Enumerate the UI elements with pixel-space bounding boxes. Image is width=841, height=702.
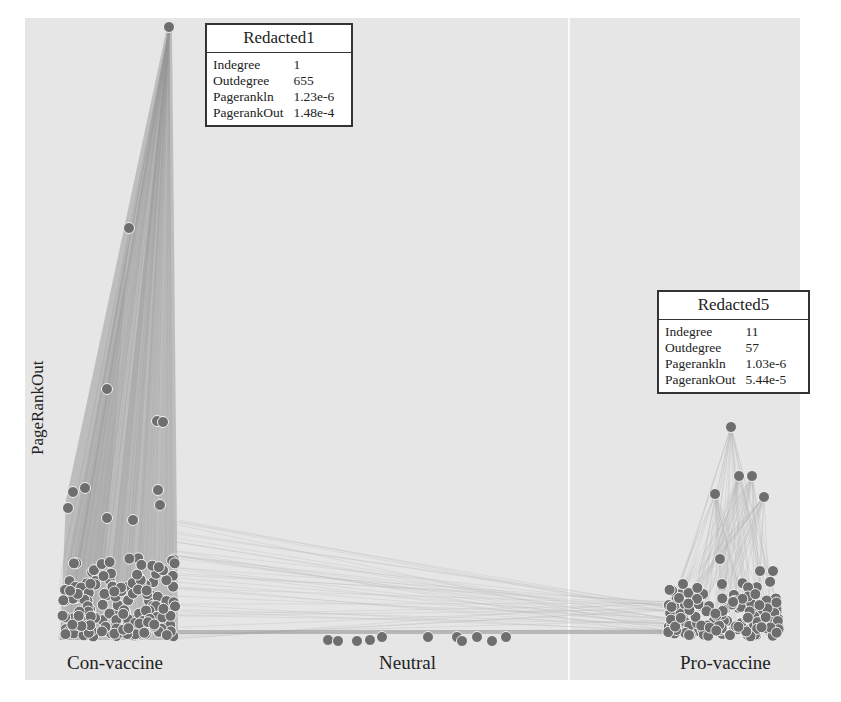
node: [136, 559, 147, 570]
tooltip-title: Redacted5: [659, 292, 808, 320]
tooltip-row: Outdegree655: [213, 73, 334, 89]
node: [153, 485, 164, 496]
node: [102, 513, 113, 524]
node: [754, 600, 765, 611]
node: [674, 593, 685, 604]
node: [457, 636, 468, 647]
node: [73, 610, 84, 621]
tooltip-row: PagerankOut1.48e-4: [213, 105, 334, 121]
node: [771, 627, 782, 638]
tooltip-key: Outdegree: [665, 340, 745, 356]
tooltip-redacted5: Redacted5 Indegree11 Outdegree57 Pageran…: [657, 290, 810, 394]
tooltip-value: 1.48e-4: [293, 105, 334, 121]
node: [104, 557, 115, 568]
node: [710, 489, 721, 500]
node: [664, 584, 675, 595]
tooltip-redacted1: Redacted1 Indegree1 Outdegree655 Pageran…: [205, 23, 353, 127]
node: [63, 503, 74, 514]
node: [666, 601, 677, 612]
node: [164, 22, 175, 33]
node: [710, 608, 721, 619]
node: [768, 566, 779, 577]
node: [678, 579, 689, 590]
tooltip-key: PagerankOut: [665, 372, 745, 388]
node: [755, 566, 766, 577]
node: [742, 612, 753, 623]
tooltip-row: Pagerankln1.23e-6: [213, 89, 334, 105]
category-label-con-vaccine: Con-vaccine: [67, 652, 163, 674]
node: [717, 579, 728, 590]
node: [715, 554, 726, 565]
tooltip-title: Redacted1: [207, 25, 351, 53]
node: [733, 621, 744, 632]
tooltip-table: Indegree11 Outdegree57 Pagerankln1.03e-6…: [665, 324, 786, 388]
node: [141, 585, 152, 596]
tooltip-key: Outdegree: [213, 73, 293, 89]
node: [124, 553, 135, 564]
node: [760, 612, 771, 623]
node: [158, 417, 169, 428]
node: [109, 586, 120, 597]
node: [65, 585, 76, 596]
node: [365, 635, 376, 646]
node: [57, 610, 68, 621]
node: [85, 578, 96, 589]
tooltip-value: 1: [293, 57, 334, 73]
node: [692, 582, 703, 593]
node: [80, 483, 91, 494]
tooltip-key: Pagerankln: [213, 89, 293, 105]
node: [756, 622, 767, 633]
tooltip-key: Indegree: [213, 57, 293, 73]
node: [747, 471, 758, 482]
node: [149, 619, 160, 630]
node: [58, 595, 69, 606]
node: [102, 384, 113, 395]
tooltip-row: Pagerankln1.03e-6: [665, 356, 786, 372]
node: [161, 575, 172, 586]
node: [501, 632, 512, 643]
node: [139, 627, 150, 638]
node: [153, 562, 164, 573]
node: [155, 500, 166, 511]
node: [352, 636, 363, 647]
node: [734, 471, 745, 482]
node: [118, 608, 129, 619]
category-label-pro-vaccine: Pro-vaccine: [680, 652, 771, 674]
node: [161, 630, 172, 641]
node: [123, 623, 134, 634]
tooltip-row: Indegree11: [665, 324, 786, 340]
tooltip-value: 655: [293, 73, 334, 89]
node: [323, 635, 334, 646]
tooltip-row: Outdegree57: [665, 340, 786, 356]
node: [711, 625, 722, 636]
tooltip-value: 11: [745, 324, 786, 340]
node: [60, 629, 71, 640]
tooltip-key: Indegree: [665, 324, 745, 340]
node: [728, 596, 739, 607]
tooltip-row: PagerankOut5.44e-5: [665, 372, 786, 388]
node: [169, 558, 180, 569]
node: [472, 632, 483, 643]
node: [765, 576, 776, 587]
node: [750, 589, 761, 600]
node: [158, 603, 169, 614]
node: [759, 492, 770, 503]
tooltip-value: 5.44e-5: [745, 372, 786, 388]
tooltip-key: PagerankOut: [213, 105, 293, 121]
node: [487, 636, 498, 647]
node: [68, 558, 79, 569]
node: [675, 612, 686, 623]
tooltip-value: 1.23e-6: [293, 89, 334, 105]
node: [377, 632, 388, 643]
node: [423, 632, 434, 643]
tooltip-table: Indegree1 Outdegree655 Pagerankln1.23e-6…: [213, 57, 334, 121]
node: [124, 223, 135, 234]
y-axis-label: PageRankOut: [28, 361, 48, 455]
node: [717, 593, 728, 604]
tooltip-value: 1.03e-6: [745, 356, 786, 372]
node: [98, 571, 109, 582]
node: [128, 515, 139, 526]
node: [726, 422, 737, 433]
tooltip-key: Pagerankln: [665, 356, 745, 372]
category-label-neutral: Neutral: [379, 652, 436, 674]
